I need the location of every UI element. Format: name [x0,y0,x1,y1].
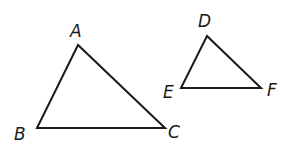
triangle-def [181,36,261,88]
vertex-label-d: D [198,11,211,31]
vertex-label-b: B [14,124,26,144]
triangle-abc [37,45,165,128]
similar-triangles-figure: A B C D E F [0,0,288,150]
vertex-label-f: F [267,80,277,100]
vertex-label-a: A [69,21,82,41]
vertex-label-c: C [168,122,180,142]
vertex-label-e: E [163,82,174,102]
